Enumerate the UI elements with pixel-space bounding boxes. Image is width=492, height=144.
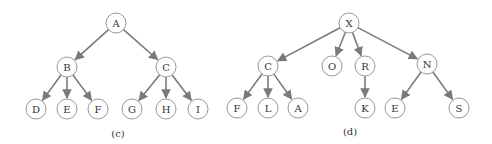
edge-c-g (139, 75, 160, 101)
node-label: S (456, 103, 463, 114)
tree-node-o: O (322, 56, 342, 76)
tree-node-e: E (57, 99, 77, 119)
tree-node-n: N (417, 54, 437, 74)
edge-x-n (358, 28, 417, 59)
node-label: K (361, 103, 369, 114)
edge-a-b (75, 30, 108, 60)
node-label: L (265, 103, 272, 114)
node-label: O (328, 61, 336, 72)
tree-node-f: F (88, 99, 108, 119)
node-label: C (264, 61, 272, 72)
tree-node-x: X (339, 13, 359, 33)
tree-node-k: K (355, 98, 375, 118)
tree-node-c: C (156, 57, 176, 77)
node-label: E (391, 103, 398, 114)
edge-b-d (43, 75, 62, 100)
edge-c2-f2 (244, 74, 263, 99)
tree-node-a: A (106, 13, 126, 33)
tree-node-g: G (122, 99, 142, 119)
edge-c2-a2 (274, 74, 292, 99)
node-label: E (63, 104, 70, 115)
node-label: H (162, 104, 171, 115)
tree-node-s: S (449, 98, 469, 118)
edge-a-c (124, 30, 158, 60)
node-label: X (345, 18, 353, 29)
tree-diagrams: ABCDEFGHIXCORNFLAKES (c)(d) (0, 0, 492, 144)
edge-b-f (73, 75, 92, 100)
tree-node-c: C (258, 56, 278, 76)
node-label: A (293, 103, 302, 114)
node-label: F (95, 104, 102, 115)
node-label: B (63, 62, 70, 73)
edge-x-o (336, 32, 345, 55)
node-label: A (111, 18, 120, 29)
nodes: ABCDEFGHIXCORNFLAKES (26, 13, 469, 119)
tree-node-b: B (57, 57, 77, 77)
node-label: I (196, 104, 200, 115)
tree-node-r: R (355, 56, 375, 76)
tree-node-d: D (26, 99, 46, 119)
node-label: R (361, 61, 369, 72)
diagram-caption: (d) (343, 126, 357, 137)
edge-n-s (433, 72, 453, 99)
tree-node-i: I (188, 99, 208, 119)
tree-node-a: A (288, 98, 308, 118)
edge-n-e2 (401, 72, 421, 99)
node-label: G (128, 104, 136, 115)
node-label: D (32, 104, 40, 115)
edge-x-r (352, 32, 361, 55)
tree-node-e: E (385, 98, 405, 118)
tree-node-h: H (156, 99, 176, 119)
diagram-caption: (c) (111, 128, 125, 139)
node-label: F (234, 103, 241, 114)
edge-c-i (172, 75, 191, 100)
tree-node-l: L (258, 98, 278, 118)
node-label: C (162, 62, 170, 73)
edges (43, 28, 453, 101)
tree-node-f: F (227, 98, 247, 118)
node-label: N (423, 59, 432, 70)
captions: (c)(d) (111, 126, 357, 139)
